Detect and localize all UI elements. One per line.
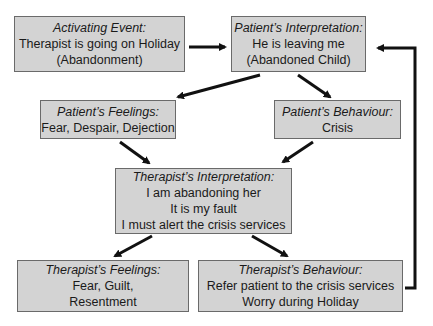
- therapist-behaviour-title: Therapist’s Behaviour:: [199, 262, 402, 278]
- therapist-behaviour-line-1: Refer patient to the crisis services: [199, 278, 402, 294]
- box-patient-interpretation: Patient’s Interpretation: He is leaving …: [231, 16, 366, 72]
- patient-behaviour-title: Patient’s Behaviour:: [275, 104, 400, 120]
- therapist-interpretation-line-1: I am abandoning her: [116, 185, 291, 201]
- activating-event-title: Activating Event:: [15, 20, 184, 36]
- box-therapist-behaviour: Therapist’s Behaviour: Refer patient to …: [198, 260, 403, 312]
- box-therapist-interpretation: Therapist’s Interpretation: I am abandon…: [115, 168, 292, 234]
- patient-interpretation-line-1: He is leaving me: [232, 36, 365, 52]
- therapist-interpretation-title: Therapist’s Interpretation:: [116, 169, 291, 185]
- arrow-feelings-to-therapist-interp: [120, 142, 149, 163]
- arrow-interp-to-behaviour: [298, 75, 330, 97]
- patient-interpretation-title: Patient’s Interpretation:: [232, 20, 365, 36]
- therapist-interpretation-line-3: I must alert the crisis services: [116, 217, 291, 233]
- arrow-feedback-loop: [378, 48, 415, 288]
- therapist-feelings-line-2: Resentment: [18, 294, 188, 310]
- arrow-therapist-interp-to-feelings: [115, 236, 152, 256]
- arrow-interp-to-feelings: [178, 75, 260, 97]
- arrow-behaviour-to-therapist-interp: [283, 142, 313, 162]
- activating-event-line-2: (Abandonment): [15, 52, 184, 68]
- box-activating-event: Activating Event: Therapist is going on …: [14, 16, 185, 72]
- box-patient-feelings: Patient’s Feelings: Fear, Despair, Dejec…: [40, 100, 176, 139]
- arrow-therapist-interp-to-behaviour: [252, 236, 287, 256]
- therapist-feelings-title: Therapist’s Feelings:: [18, 262, 188, 278]
- activating-event-line-1: Therapist is going on Holiday: [15, 36, 184, 52]
- patient-feelings-title: Patient’s Feelings:: [41, 104, 175, 120]
- patient-interpretation-line-2: (Abandoned Child): [232, 52, 365, 68]
- box-patient-behaviour: Patient’s Behaviour: Crisis: [274, 100, 401, 139]
- therapist-interpretation-line-2: It is my fault: [116, 201, 291, 217]
- therapist-feelings-line-1: Fear, Guilt,: [18, 278, 188, 294]
- patient-feelings-line-1: Fear, Despair, Dejection: [41, 120, 175, 136]
- therapist-behaviour-line-2: Worry during Holiday: [199, 294, 402, 310]
- patient-behaviour-line-1: Crisis: [275, 120, 400, 136]
- box-therapist-feelings: Therapist’s Feelings: Fear, Guilt, Resen…: [17, 260, 189, 312]
